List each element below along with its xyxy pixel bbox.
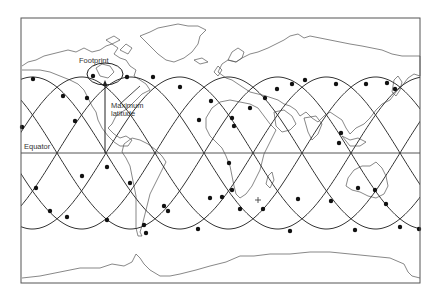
satellite-dot <box>220 195 224 199</box>
satellite-dot <box>296 197 300 201</box>
satellite-dot <box>356 186 360 190</box>
satellite-dot <box>125 75 129 79</box>
cross-marker-icon <box>255 197 261 203</box>
satellite-dot <box>73 119 77 123</box>
satellite-dot <box>290 82 294 86</box>
satellite-dot <box>353 228 357 232</box>
satellite-dot <box>261 207 265 211</box>
greenland-outline <box>140 24 206 62</box>
satellite-dot <box>61 94 65 98</box>
satellite-dot <box>105 165 109 169</box>
satellite-dot <box>128 181 132 185</box>
satellite-dot <box>48 209 52 213</box>
arrow-head-icon <box>103 80 108 86</box>
satellite-dot <box>230 188 234 192</box>
satellite-dot <box>209 99 213 103</box>
satellite-dot <box>275 87 279 91</box>
satellite-dot <box>373 188 377 192</box>
satellite-positions <box>20 74 421 235</box>
satellite-dot <box>303 78 307 82</box>
india-outline <box>304 116 322 140</box>
satellite-dot <box>339 131 343 135</box>
hudson-region <box>96 64 114 78</box>
iceland-outline <box>194 58 208 64</box>
arabia-outline <box>274 110 296 132</box>
satellite-dot <box>417 227 421 231</box>
satellite-dot <box>34 186 38 190</box>
satellite-dot <box>196 227 200 231</box>
satellite-dot <box>80 174 84 178</box>
satellite-dot <box>334 82 338 86</box>
satellite-dot <box>166 209 170 213</box>
satellite-dot <box>178 85 182 89</box>
satellite-dot <box>337 141 341 145</box>
satellite-dot <box>329 199 333 203</box>
satellite-dot <box>384 202 388 206</box>
equator-label: Equator <box>24 143 50 151</box>
satellite-dot <box>393 87 397 91</box>
satellite-dot <box>263 96 267 100</box>
satellite-dot <box>230 116 234 120</box>
satellite-dot <box>364 82 368 86</box>
satellite-dot <box>105 218 109 222</box>
satellite-dot <box>248 106 252 110</box>
scandinavia-outline <box>228 48 244 62</box>
world-map <box>0 0 439 299</box>
satellite-dot <box>238 207 242 211</box>
australia-outline <box>346 162 388 198</box>
satellite-dot <box>232 124 236 128</box>
satellite-dot <box>385 81 389 85</box>
footprint-label: Footprint <box>79 57 109 65</box>
satellite-dot <box>85 96 89 100</box>
satellite-dot <box>31 77 35 81</box>
satellite-dot <box>162 204 166 208</box>
satellite-dot <box>142 223 146 227</box>
antarctica-outline <box>22 252 420 278</box>
satellite-dot <box>65 215 69 219</box>
satellite-dot <box>208 196 212 200</box>
africa-outline <box>206 100 276 198</box>
satellite-dot <box>398 225 402 229</box>
satellite-dot <box>288 229 292 233</box>
satellite-dot <box>227 161 231 165</box>
satellite-dot <box>91 74 95 78</box>
satellite-dot <box>197 118 201 122</box>
ground-track-diagram: Footprint Maximum latitude Equator <box>0 0 439 299</box>
maximum-latitude-label-line2: latitude <box>111 110 135 118</box>
satellite-dot <box>151 75 155 79</box>
satellite-dot <box>144 231 148 235</box>
satellite-dot <box>20 125 24 129</box>
